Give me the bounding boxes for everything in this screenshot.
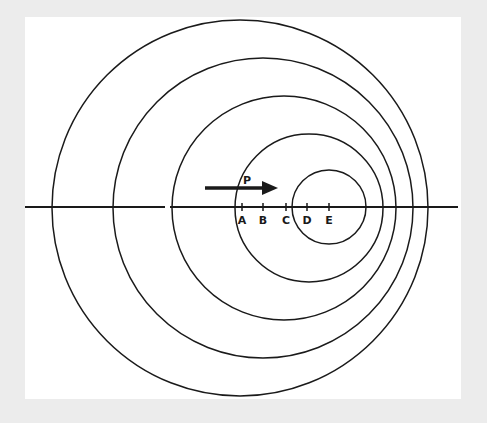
arrowhead-icon (262, 181, 278, 195)
point-label-b: B (259, 214, 267, 227)
point-label-e: E (325, 214, 333, 227)
point-label-a: A (238, 214, 247, 227)
point-label-d: D (302, 214, 311, 227)
arrow-label-p: P (243, 174, 251, 187)
point-label-c: C (282, 214, 290, 227)
wavefront-diagram: P ABCDE (0, 0, 487, 423)
motion-arrow (205, 181, 278, 195)
